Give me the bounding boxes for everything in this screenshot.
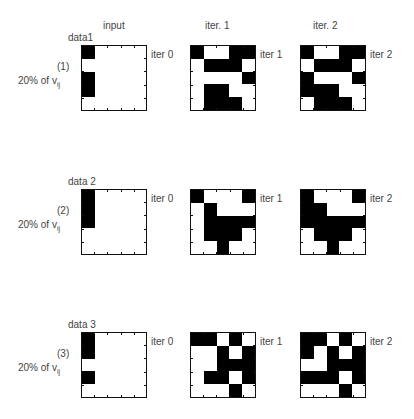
axis-tick [107,108,108,111]
white-cell [314,72,327,85]
axis-tick [203,395,204,398]
axis-tick [134,189,135,192]
black-cell [242,72,255,85]
axis-tick [81,85,84,86]
white-cell [133,371,146,384]
axis-tick [190,385,193,386]
axis-tick [144,345,147,346]
white-cell [95,241,108,254]
black-cell [204,216,217,229]
white-cell [204,46,217,59]
axis-tick [326,108,327,111]
white-cell [242,228,255,241]
axis-tick [313,108,314,111]
axis-tick [81,385,84,386]
axis-tick [313,252,314,255]
axis-tick [190,85,193,86]
white-cell [95,84,108,97]
white-cell [217,384,230,397]
axis-tick [313,332,314,335]
axis-tick [253,385,256,386]
white-cell [120,59,133,72]
black-cell [327,346,340,359]
white-cell [82,59,95,72]
black-cell [301,203,314,216]
black-cell [82,203,95,216]
data-label: data 2 [68,176,96,187]
column-header-iter1: iter. 1 [205,20,229,31]
axis-tick [253,372,256,373]
iter-label: iter 1 [260,336,282,347]
axis-tick [230,189,231,192]
white-cell [217,46,230,59]
white-cell [120,190,133,203]
white-cell [95,384,108,397]
black-cell [191,333,204,346]
white-cell [191,216,204,229]
axis-tick [121,395,122,398]
axis-tick [134,395,135,398]
black-cell [301,190,314,203]
black-cell [314,59,327,72]
black-cell [229,46,242,59]
axis-tick [353,395,354,398]
white-cell [108,72,121,85]
white-cell [301,384,314,397]
axis-tick [144,358,147,359]
black-cell [327,59,340,72]
axis-tick [121,45,122,48]
white-cell [229,241,242,254]
axis-tick [313,45,314,48]
black-cell [217,97,230,110]
white-cell [242,333,255,346]
white-cell [95,59,108,72]
axis-tick [300,358,303,359]
white-cell [314,190,327,203]
axis-tick [216,189,217,192]
white-cell [204,72,217,85]
white-cell [339,203,352,216]
percent-text: 20% of v [18,75,57,86]
axis-tick [243,332,244,335]
axis-tick [340,332,341,335]
white-cell [301,228,314,241]
percent-text: 20% of v [18,362,57,373]
white-cell [133,84,146,97]
black-cell [229,97,242,110]
white-cell [95,72,108,85]
white-cell [120,371,133,384]
axis-tick [81,372,84,373]
percent-label: 20% of vij [18,219,60,232]
black-cell [229,59,242,72]
white-cell [108,46,121,59]
axis-tick [190,71,193,72]
white-cell [108,241,121,254]
black-cell [242,359,255,372]
white-cell [314,346,327,359]
white-cell [120,97,133,110]
white-cell [95,333,108,346]
white-cell [108,346,121,359]
axis-tick [94,45,95,48]
percent-subscript: ij [57,225,60,232]
white-cell [95,228,108,241]
black-cell [242,190,255,203]
white-cell [204,346,217,359]
black-cell [204,84,217,97]
black-cell [82,46,95,59]
black-cell [301,46,314,59]
black-cell [229,216,242,229]
axis-tick [253,345,256,346]
white-cell [108,84,121,97]
white-cell [352,59,365,72]
iter-label: iter 1 [260,193,282,204]
axis-tick [363,85,366,86]
axis-tick [144,385,147,386]
black-cell [82,216,95,229]
black-cell [327,228,340,241]
axis-tick [253,229,256,230]
white-cell [82,228,95,241]
axis-tick [300,71,303,72]
white-cell [242,59,255,72]
axis-tick [121,332,122,335]
